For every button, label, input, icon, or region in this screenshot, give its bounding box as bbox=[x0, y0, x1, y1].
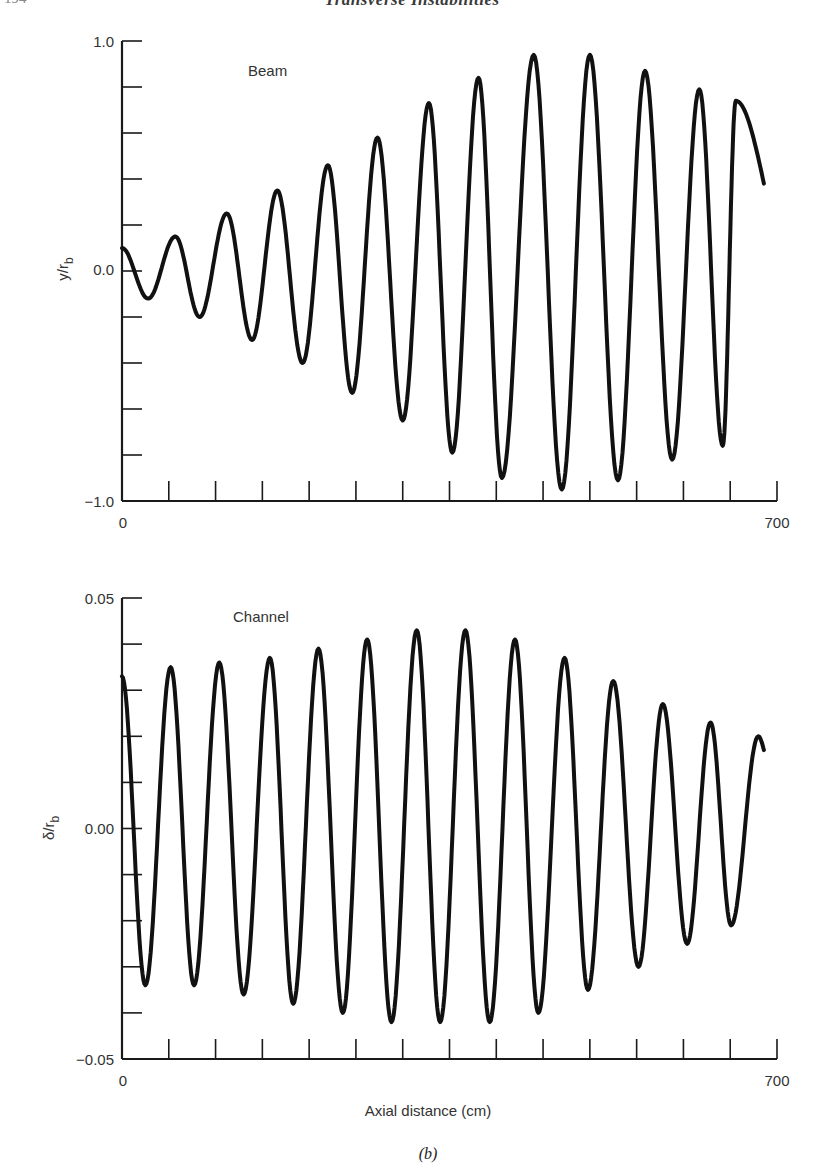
channel-y-axis-label: δ/rb bbox=[40, 816, 62, 841]
x-axis-label: Axial distance (cm) bbox=[365, 1102, 492, 1119]
beam-xtick-start: 0 bbox=[119, 514, 127, 531]
channel-ytick-top: 0.05 bbox=[85, 590, 114, 607]
beam-xtick-end: 700 bbox=[764, 514, 789, 531]
beam-y-axis-label: y/rb bbox=[54, 257, 76, 281]
beam-ytick-bottom: −1.0 bbox=[84, 493, 114, 510]
beam-curve bbox=[122, 55, 764, 490]
channel-ytick-bottom: −0.05 bbox=[76, 1051, 114, 1068]
beam-ytick-top: 1.0 bbox=[93, 33, 114, 50]
channel-xtick-end: 700 bbox=[764, 1072, 789, 1089]
channel-ytick-zero: 0.00 bbox=[85, 820, 114, 837]
beam-ytick-zero: 0.0 bbox=[93, 261, 114, 278]
figure-caption: (b) bbox=[419, 1145, 438, 1163]
figure-page: Transverse Instabilities 194 1.0 0.0 −1.… bbox=[0, 0, 824, 1175]
beam-chart: 1.0 0.0 −1.0 0 700 Beam y/rb bbox=[54, 33, 790, 531]
channel-xtick-start: 0 bbox=[119, 1072, 127, 1089]
figure-svg: 1.0 0.0 −1.0 0 700 Beam y/rb 0.05 0.00 −… bbox=[0, 0, 824, 1175]
channel-chart: 0.05 0.00 −0.05 0 700 Channel δ/rb Axial… bbox=[40, 590, 790, 1163]
beam-series-label: Beam bbox=[248, 62, 287, 79]
channel-series-label: Channel bbox=[233, 608, 289, 625]
channel-curve bbox=[122, 630, 764, 1022]
